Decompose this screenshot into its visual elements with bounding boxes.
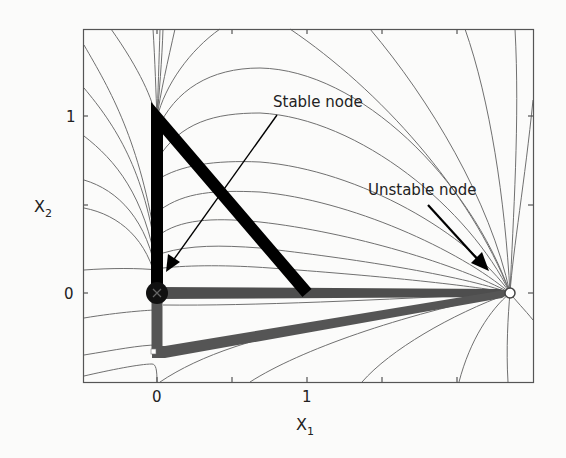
stable-node-label: Stable node — [273, 93, 363, 111]
y-tick-label-1: 1 — [66, 108, 76, 126]
stable-node-marker — [146, 282, 168, 304]
y-axis-label: X2 — [34, 197, 52, 220]
gray-trajectory — [151, 287, 510, 358]
x-tick-label-0: 0 — [152, 388, 162, 406]
unstable-node-marker — [505, 288, 515, 298]
x-tick-label-1: 1 — [302, 388, 312, 406]
y-tick-label-0: 0 — [64, 285, 74, 303]
unstable-node-label: Unstable node — [368, 181, 477, 199]
unstable-node-arrow — [428, 205, 489, 271]
x-axis-label: X1 — [296, 415, 314, 438]
phase-portrait-figure: Stable node Unstable node 0 1 0 1 X1 X2 — [0, 0, 566, 458]
